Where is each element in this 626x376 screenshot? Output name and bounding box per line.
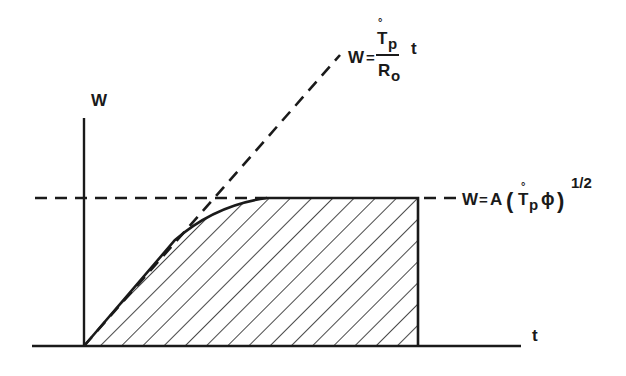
plateau-equation: W = A ( ° T p ϕ ) 1/2 [462, 174, 592, 213]
eq2-exponent: 1/2 [571, 174, 592, 191]
eq1-den-symbol: R [378, 61, 390, 80]
eq2-open-bracket: ( [506, 188, 514, 213]
diagram-canvas: W t W = ° T p R o t W = A ( ° T p ϕ ) 1/… [0, 0, 626, 376]
eq2-subscript: p [529, 196, 538, 213]
x-axis-label: t [532, 326, 538, 345]
eq2-coef: A [490, 190, 502, 209]
eq2-close-bracket: ) [557, 188, 564, 213]
eq1-num-accent: ° [378, 16, 382, 28]
eq2-lhs: W [462, 190, 479, 209]
y-axis-label: W [91, 91, 108, 110]
eq1-lhs: W [348, 48, 365, 67]
linear-asymptote-equation: W = ° T p R o t [348, 16, 417, 84]
eq1-den-subscript: o [391, 67, 400, 84]
eq2-symbol: T [518, 190, 529, 209]
hatched-area [84, 198, 418, 346]
eq1-trailing: t [411, 39, 417, 58]
eq2-phi: ϕ [541, 189, 555, 209]
eq1-equals: = [366, 49, 375, 66]
eq2-equals: = [479, 191, 488, 208]
eq1-num-symbol: T [377, 29, 388, 48]
eq1-num-subscript: p [388, 35, 397, 52]
